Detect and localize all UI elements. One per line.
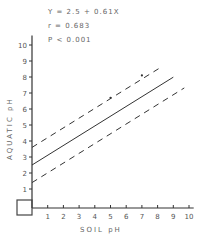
y-tick-label: 8	[23, 74, 27, 82]
r-annotation: r = 0.683	[48, 22, 90, 30]
y-axis-label: AQUATIC pH	[6, 97, 14, 160]
x-tick-label: 9	[171, 213, 175, 221]
x-tick-label: 4	[93, 213, 98, 221]
regression-line	[32, 77, 173, 165]
y-tick-label: 1	[23, 186, 27, 194]
origin-box	[17, 200, 32, 215]
y-tick-label: 4	[23, 138, 28, 146]
data-point	[141, 74, 143, 76]
equation-annotation: Y = 2.5 + 0.61X	[48, 8, 119, 16]
x-tick-label: 6	[124, 213, 129, 221]
x-tick-label: 5	[108, 213, 112, 221]
y-tick-label: 5	[23, 122, 27, 130]
x-tick-label: 10	[185, 213, 194, 221]
y-tick-label: 7	[23, 90, 27, 98]
x-tick-label: 2	[61, 213, 65, 221]
x-tick-label: 8	[155, 213, 159, 221]
y-tick-label: 9	[23, 58, 27, 66]
y-tick-label: 10	[18, 42, 27, 50]
regression-lines	[32, 67, 184, 182]
p-annotation: P < 0.001	[48, 36, 92, 44]
upper-confidence-band	[32, 67, 161, 147]
y-tick-label: 2	[23, 170, 27, 178]
x-tick-label: 7	[140, 213, 144, 221]
scatter-chart: 1234567891012345678910 SOIL pH AQUATIC p…	[0, 0, 204, 241]
lower-confidence-band	[32, 88, 184, 183]
x-tick-label: 1	[45, 213, 49, 221]
axes: 1234567891012345678910	[18, 35, 194, 221]
data-points	[109, 74, 143, 99]
y-tick-label: 6	[23, 106, 28, 114]
y-tick-label: 3	[23, 154, 27, 162]
data-point	[109, 97, 111, 99]
x-tick-label: 3	[77, 213, 81, 221]
x-axis-label: SOIL pH	[80, 226, 122, 234]
